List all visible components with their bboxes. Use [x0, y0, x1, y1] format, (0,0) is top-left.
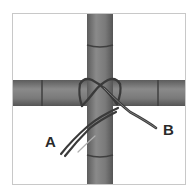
- label-b: B: [163, 122, 174, 137]
- lashing-diagram: A B: [0, 0, 195, 195]
- label-a: A: [45, 134, 56, 149]
- diagram-svg: [0, 0, 195, 195]
- vertical-pole: [87, 14, 113, 184]
